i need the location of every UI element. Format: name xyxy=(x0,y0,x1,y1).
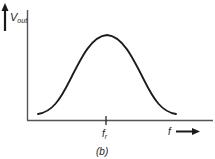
resonance-frequency-label: fr xyxy=(102,128,108,140)
resonance-curve xyxy=(38,35,176,114)
y-axis-label: Vout xyxy=(10,11,28,24)
x-axis-arrow-icon xyxy=(176,128,200,135)
y-axis-arrow-icon xyxy=(2,3,9,31)
resonance-diagram: Vout fr f (b) xyxy=(0,0,215,159)
x-axis-label: f xyxy=(168,126,172,137)
figure-caption: (b) xyxy=(96,146,108,157)
